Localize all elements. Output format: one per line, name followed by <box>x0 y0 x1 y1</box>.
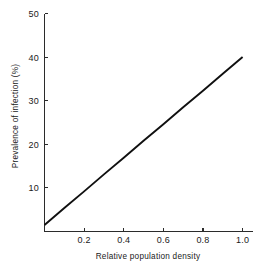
y-tick-label: 10 <box>29 183 39 193</box>
x-tick-label: 0.8 <box>196 235 209 245</box>
y-tick-label: 40 <box>29 53 39 63</box>
data-line-prevalence <box>45 57 243 225</box>
y-tick-label: 30 <box>29 96 39 106</box>
x-tick-label: 0.6 <box>157 235 170 245</box>
data-series-group <box>45 57 243 225</box>
x-tick-label: 0.4 <box>117 235 130 245</box>
x-tick-label: 1.0 <box>236 235 249 245</box>
x-tick-label-group: 0.20.40.60.81.0 <box>78 235 250 245</box>
y-tick-label-group: 1020304050 <box>29 9 39 193</box>
chart-figure: Prevalence of infection (%) Relative pop… <box>0 0 270 275</box>
y-tick-label: 20 <box>29 140 39 150</box>
x-tick-label: 0.2 <box>78 235 91 245</box>
plot-area: 1020304050 0.20.40.60.81.0 <box>0 0 270 275</box>
y-tick-label: 50 <box>29 9 39 19</box>
